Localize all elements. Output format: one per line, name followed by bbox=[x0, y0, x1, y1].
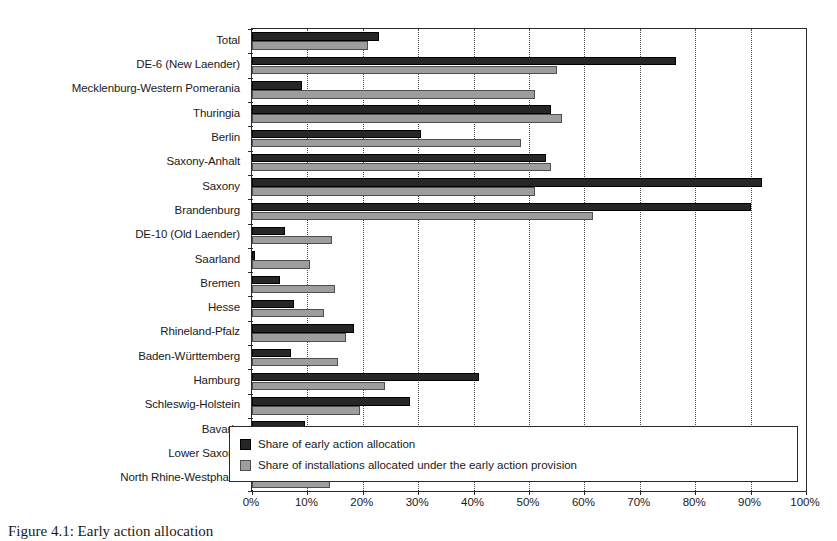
y-axis-tick bbox=[248, 102, 253, 103]
x-axis-tick-label: 40% bbox=[461, 496, 484, 509]
y-axis-tick bbox=[248, 345, 253, 346]
y-axis-tick bbox=[248, 369, 253, 370]
category-label: Saxony-Anhalt bbox=[0, 155, 240, 167]
x-axis-tick-label: 20% bbox=[350, 496, 373, 509]
light-square-swatch-icon bbox=[240, 460, 251, 471]
bar-installations-share bbox=[252, 406, 360, 415]
y-axis-tick bbox=[248, 199, 253, 200]
x-axis-tick bbox=[640, 490, 641, 495]
bar-early-action-allocation bbox=[252, 276, 280, 285]
x-axis-tick bbox=[806, 490, 807, 495]
y-axis-tick bbox=[248, 53, 253, 54]
bar-early-action-allocation bbox=[252, 300, 294, 309]
value-axis-labels: 0%10%20%30%40%50%60%70%80%90%100% bbox=[251, 496, 805, 516]
bar-installations-share bbox=[252, 212, 593, 221]
x-axis-tick-label: 0% bbox=[243, 496, 260, 509]
figure-container: TotalDE-6 (New Laender)Mecklenburg-Weste… bbox=[0, 0, 837, 541]
x-axis-tick-label: 30% bbox=[406, 496, 429, 509]
x-axis-tick bbox=[474, 490, 475, 495]
bar-installations-share bbox=[252, 285, 335, 294]
y-axis-tick bbox=[248, 126, 253, 127]
category-label: Saxony bbox=[0, 180, 240, 192]
y-axis-tick bbox=[248, 296, 253, 297]
category-label: Berlin bbox=[0, 131, 240, 143]
x-axis-tick-label: 70% bbox=[627, 496, 650, 509]
bar-installations-share bbox=[252, 90, 535, 99]
bar-early-action-allocation bbox=[252, 324, 354, 333]
bar-early-action-allocation bbox=[252, 130, 421, 139]
bar-installations-share bbox=[252, 358, 338, 367]
x-axis-tick-label: 60% bbox=[572, 496, 595, 509]
category-label: DE-10 (Old Laender) bbox=[0, 228, 240, 240]
bar-early-action-allocation bbox=[252, 32, 379, 41]
chart-legend: Share of early action allocation Share o… bbox=[229, 426, 798, 482]
bar-installations-share bbox=[252, 382, 385, 391]
legend-label: Share of installations allocated under t… bbox=[258, 459, 577, 472]
bar-early-action-allocation bbox=[252, 154, 546, 163]
x-axis-tick-label: 90% bbox=[738, 496, 761, 509]
bar-early-action-allocation bbox=[252, 397, 410, 406]
y-axis-tick bbox=[248, 29, 253, 30]
y-axis-tick bbox=[248, 175, 253, 176]
bar-installations-share bbox=[252, 163, 551, 172]
y-axis-tick bbox=[248, 248, 253, 249]
y-axis-tick bbox=[248, 151, 253, 152]
bar-installations-share bbox=[252, 66, 557, 75]
dark-square-swatch-icon bbox=[240, 439, 251, 450]
bar-installations-share bbox=[252, 333, 346, 342]
bar-early-action-allocation bbox=[252, 349, 291, 358]
bar-early-action-allocation bbox=[252, 203, 751, 212]
category-label: Baden-Württemberg bbox=[0, 350, 240, 362]
bar-early-action-allocation bbox=[252, 81, 302, 90]
category-label: North Rhine-Westphalia bbox=[0, 471, 240, 483]
y-axis-tick bbox=[248, 394, 253, 395]
y-axis-tick bbox=[248, 78, 253, 79]
category-label: Thuringia bbox=[0, 107, 240, 119]
legend-entry-installations-share: Share of installations allocated under t… bbox=[240, 455, 797, 476]
bar-early-action-allocation bbox=[252, 57, 676, 66]
category-label: Brandenburg bbox=[0, 204, 240, 216]
x-axis-tick bbox=[695, 490, 696, 495]
x-axis-tick-label: 100% bbox=[790, 496, 819, 509]
bar-installations-share bbox=[252, 309, 324, 318]
bar-installations-share bbox=[252, 114, 562, 123]
category-label: Hesse bbox=[0, 301, 240, 313]
category-label: Saarland bbox=[0, 253, 240, 265]
y-axis-tick bbox=[248, 418, 253, 419]
bar-installations-share bbox=[252, 236, 332, 245]
category-label: Total bbox=[0, 34, 240, 46]
bar-installations-share bbox=[252, 187, 535, 196]
bar-installations-share bbox=[252, 41, 368, 50]
x-axis-tick bbox=[307, 490, 308, 495]
bar-early-action-allocation bbox=[252, 373, 479, 382]
category-label: DE-6 (New Laender) bbox=[0, 58, 240, 70]
x-axis-tick bbox=[529, 490, 530, 495]
x-axis-tick-label: 10% bbox=[295, 496, 318, 509]
x-axis-tick-label: 50% bbox=[516, 496, 539, 509]
category-label: Lower Saxony bbox=[0, 447, 240, 459]
x-axis-tick bbox=[584, 490, 585, 495]
bar-early-action-allocation bbox=[252, 178, 762, 187]
y-axis-tick bbox=[248, 321, 253, 322]
category-label: Schleswig-Holstein bbox=[0, 398, 240, 410]
bar-early-action-allocation bbox=[252, 105, 551, 114]
category-label: Bavaria bbox=[0, 423, 240, 435]
y-axis-tick bbox=[248, 224, 253, 225]
bar-early-action-allocation bbox=[252, 227, 285, 236]
category-label: Mecklenburg-Western Pomerania bbox=[0, 82, 240, 94]
category-label: Hamburg bbox=[0, 374, 240, 386]
y-axis-tick bbox=[248, 272, 253, 273]
x-axis-tick bbox=[363, 490, 364, 495]
legend-entry-early-action-allocation: Share of early action allocation bbox=[240, 434, 797, 455]
x-axis-tick bbox=[751, 490, 752, 495]
y-axis-tick bbox=[248, 491, 253, 492]
bar-early-action-allocation bbox=[252, 251, 255, 260]
bar-installations-share bbox=[252, 139, 521, 148]
bars-layer bbox=[252, 29, 806, 491]
category-label: Rhineland-Pfalz bbox=[0, 325, 240, 337]
figure-caption: Figure 4.1: Early action allocation bbox=[8, 522, 828, 541]
legend-label: Share of early action allocation bbox=[258, 438, 415, 451]
bar-installations-share bbox=[252, 260, 310, 269]
category-axis-labels: TotalDE-6 (New Laender)Mecklenburg-Weste… bbox=[0, 28, 246, 490]
x-axis-tick bbox=[418, 490, 419, 495]
